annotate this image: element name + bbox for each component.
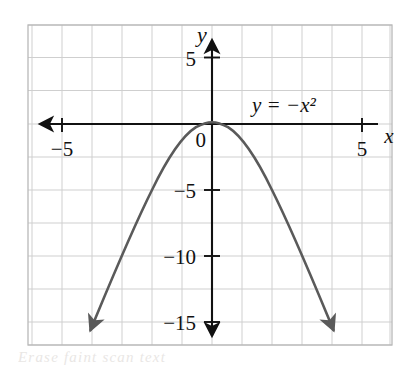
parabola-graph-svg: y x 5 −5 −10 −15 −5 5 0 y = −x²	[0, 0, 420, 369]
x-tick-label--5: −5	[51, 137, 73, 161]
y-tick-label--5: −5	[174, 179, 196, 203]
y-tick-label--10: −10	[163, 245, 196, 269]
origin-label: 0	[196, 128, 207, 152]
figure-background	[0, 0, 420, 369]
x-tick-label-5: 5	[357, 137, 368, 161]
y-axis-label: y	[195, 22, 207, 47]
graph-figure: y x 5 −5 −10 −15 −5 5 0 y = −x²	[0, 0, 420, 369]
curve-equation-label: y = −x²	[250, 93, 316, 117]
scan-bleed-text: Erase faint scan text	[18, 349, 402, 367]
y-tick-label--15: −15	[163, 311, 196, 335]
y-tick-label-5: 5	[186, 47, 197, 71]
x-axis-label: x	[383, 124, 394, 148]
